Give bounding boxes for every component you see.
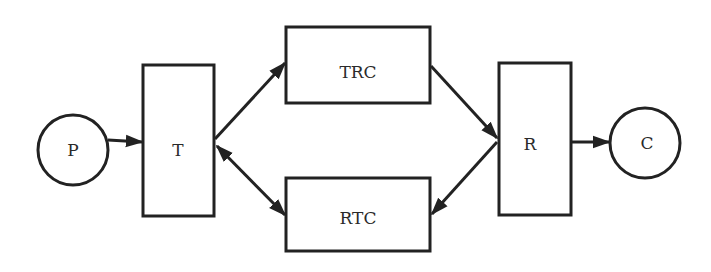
flow-diagram: P T TRC RTC R C	[0, 0, 711, 272]
node-c: C	[610, 108, 680, 178]
edge-p-to-t	[108, 140, 142, 142]
node-t-label: T	[172, 140, 184, 160]
node-p: P	[38, 115, 108, 185]
edge-t-rtc-bidirectional	[217, 146, 285, 215]
node-r-label: R	[524, 134, 538, 154]
edge-trc-to-r	[431, 66, 497, 138]
node-r: R	[499, 63, 571, 215]
node-rtc: RTC	[286, 178, 430, 251]
node-rtc-label: RTC	[340, 208, 377, 228]
node-p-label: P	[67, 140, 78, 160]
edge-t-to-trc	[215, 63, 285, 139]
node-c-label: C	[640, 133, 653, 153]
node-trc-label: TRC	[339, 62, 376, 82]
node-t: T	[143, 65, 214, 216]
node-trc: TRC	[286, 27, 430, 103]
edge-r-to-rtc	[432, 142, 497, 214]
